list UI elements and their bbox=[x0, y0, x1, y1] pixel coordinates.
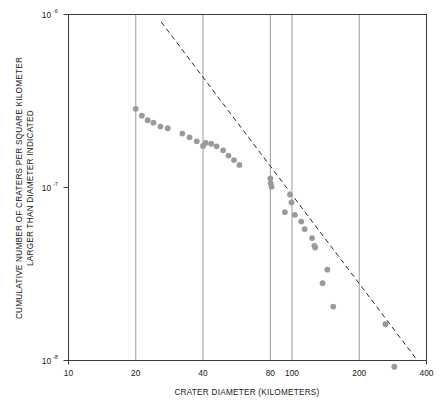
data-point bbox=[179, 131, 185, 137]
x-tick-label-400: 400 bbox=[420, 368, 434, 378]
data-point bbox=[292, 212, 298, 218]
data-point bbox=[330, 304, 336, 310]
data-point bbox=[194, 138, 200, 144]
data-point bbox=[237, 162, 243, 168]
data-point bbox=[312, 245, 318, 251]
data-point bbox=[383, 321, 389, 327]
data-point bbox=[145, 117, 151, 123]
data-point bbox=[139, 113, 145, 119]
y-axis-title-line2: LARGER THAN DIAMETER INDICATED bbox=[26, 110, 35, 266]
x-tick-label-20: 20 bbox=[131, 368, 141, 378]
data-point bbox=[269, 184, 275, 190]
crater-size-frequency-chart: 10204080100200400 10-610-710-8 CRATER DI… bbox=[0, 0, 444, 415]
x-tick-label-100: 100 bbox=[285, 368, 299, 378]
data-point bbox=[287, 192, 293, 198]
data-point bbox=[282, 209, 288, 215]
data-point bbox=[133, 106, 139, 112]
chart-background bbox=[0, 0, 444, 415]
data-point bbox=[226, 153, 232, 159]
data-point bbox=[165, 125, 171, 131]
y-tick-label-exponent--6: -6 bbox=[53, 8, 58, 14]
data-point bbox=[208, 141, 214, 147]
data-point bbox=[151, 120, 157, 126]
y-tick-label-exponent--8: -8 bbox=[53, 354, 58, 360]
data-point bbox=[309, 235, 315, 241]
x-tick-label-10: 10 bbox=[64, 368, 74, 378]
x-tick-label-80: 80 bbox=[266, 368, 276, 378]
data-point bbox=[289, 200, 295, 206]
y-tick-label-mantissa--7: 10 bbox=[42, 183, 52, 193]
y-tick-label-mantissa--6: 10 bbox=[42, 10, 52, 20]
x-axis-title: CRATER DIAMETER (KILOMETERS) bbox=[174, 388, 319, 397]
data-point bbox=[302, 226, 308, 232]
x-tick-label-40: 40 bbox=[198, 368, 208, 378]
y-tick-label-mantissa--8: 10 bbox=[42, 356, 52, 366]
y-tick-label-exponent--7: -7 bbox=[53, 181, 58, 187]
data-point bbox=[203, 140, 209, 146]
data-point bbox=[158, 124, 164, 130]
y-axis-title-line1: CUMULATIVE NUMBER OF CRATERS PER SQUARE … bbox=[15, 57, 24, 319]
x-tick-label-200: 200 bbox=[352, 368, 366, 378]
data-point bbox=[320, 280, 326, 286]
data-point bbox=[298, 219, 304, 225]
data-point bbox=[391, 364, 397, 370]
data-point bbox=[214, 143, 220, 149]
data-point bbox=[220, 147, 226, 153]
data-point bbox=[187, 134, 193, 140]
data-point bbox=[324, 267, 330, 273]
data-point bbox=[231, 157, 237, 163]
